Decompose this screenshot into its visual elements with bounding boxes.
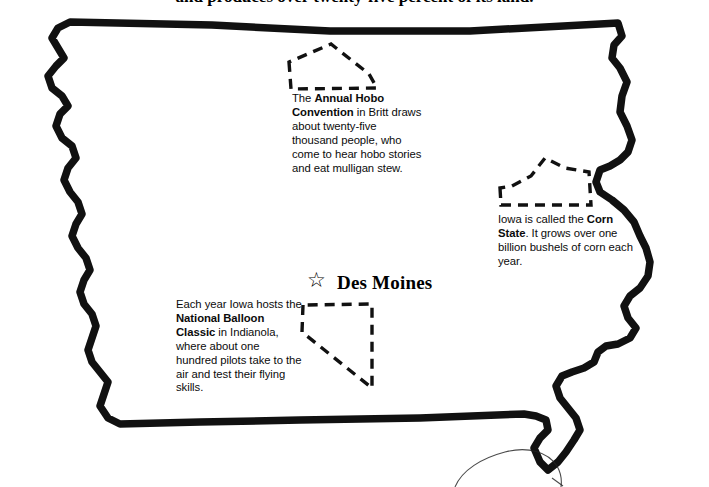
county-outline-corn-region [500,158,591,205]
note-balloon-bold1: National Balloon [176,312,264,324]
note-hobo-bold1: Annual Hobo [314,92,384,104]
county-outline-warren [302,304,372,388]
note-corn-bold1: Corn [587,213,613,225]
capital-label: Des Moines [337,272,432,294]
county-outline-hancock [289,44,377,89]
capital-star-icon: ☆ [307,270,326,291]
note-hobo-bold2: Convention [292,106,354,118]
note-hobo-convention: The Annual Hobo Convention in Britt draw… [292,92,423,175]
note-balloon-bold2: Classic [176,326,215,338]
note-corn-bold2: State [498,227,525,239]
iowa-map: and produces over twenty-five percent of… [0,0,709,487]
note-hobo-lead: The [292,92,314,104]
note-corn-lead: Iowa is called the [498,213,587,225]
note-balloon-lead: Each year Iowa hosts the [176,298,302,310]
note-corn-state: Iowa is called the Corn State. It grows … [498,213,634,269]
note-balloon-classic: Each year Iowa hosts the National Balloo… [176,298,302,395]
